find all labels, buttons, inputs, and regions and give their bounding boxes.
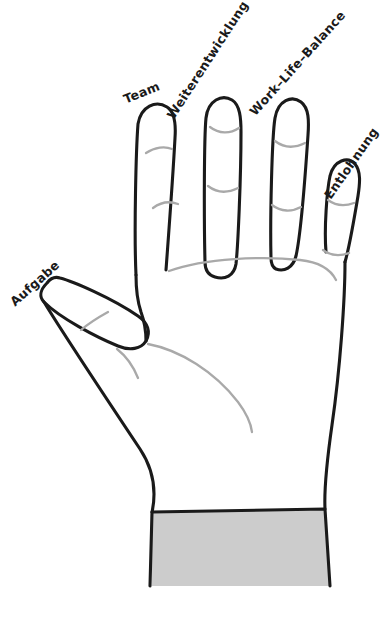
hand-left-lower-edge — [44, 302, 154, 512]
finger-middle-crease-lower — [208, 186, 238, 192]
hand-diagram-canvas: Aufgabe Team Weiterentwicklung Work–Life… — [0, 0, 390, 619]
finger-ring-crease-lower — [272, 205, 301, 211]
finger-ring-crease-upper — [275, 141, 305, 147]
knuckle-crease — [169, 258, 336, 280]
finger-ring-outline — [271, 99, 309, 270]
palm-left-edge — [136, 275, 146, 341]
finger-index-crease-lower — [153, 202, 178, 208]
hand-outline — [41, 277, 149, 348]
finger-middle-crease-upper — [210, 127, 239, 132]
finger-index-crease-upper — [146, 147, 172, 153]
finger-index-outline — [135, 104, 175, 275]
palm-crease-upper — [148, 344, 252, 432]
hand-illustration — [0, 0, 390, 619]
hand-right-edge — [325, 262, 345, 509]
thumb-crease — [81, 312, 108, 330]
thumb-web-crease — [117, 349, 138, 378]
sleeve-fill — [152, 509, 330, 586]
